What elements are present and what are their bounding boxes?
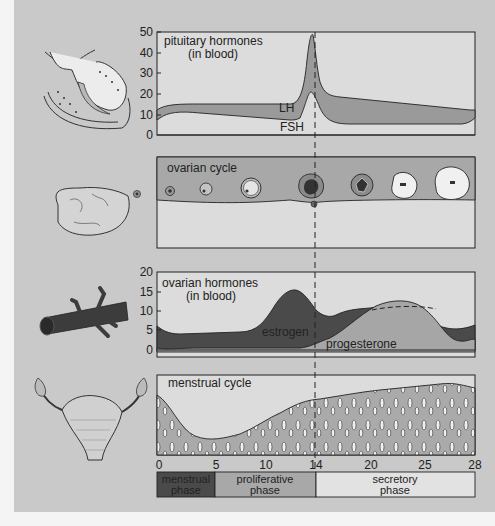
proliferative-phase-label-2: phase [250,484,280,496]
svg-text:5: 5 [213,458,220,472]
svg-text:20: 20 [140,87,154,101]
pituitary-hormones-chart: pituitary hormones (in blood) LH FSH 50 … [140,25,475,142]
ovary-icon [56,187,140,235]
svg-text:0: 0 [146,343,153,357]
svg-text:40: 40 [140,46,154,60]
ovarian-hormones-title-line2: (in blood) [186,289,236,303]
menstrual-cycle-title: menstrual cycle [168,376,252,390]
progesterone-label: progesterone [326,337,397,351]
pituitary-title-line2: (in blood) [188,47,238,61]
svg-text:30: 30 [140,66,154,80]
uterus-icon [35,378,147,460]
svg-text:14: 14 [309,458,323,472]
menstrual-cycle-diagram: pituitary hormones (in blood) LH FSH 50 … [0,0,495,526]
svg-text:0: 0 [146,128,153,142]
fsh-label: FSH [280,120,304,134]
day-axis: 0 5 10 14 20 25 28 [156,458,482,472]
ovarian-cycle-title: ovarian cycle [167,161,237,175]
svg-text:50: 50 [140,25,154,39]
ovarian-hormones-y-axis: 20 15 10 5 0 [140,265,154,357]
pituitary-gland-icon [44,50,130,129]
menstrual-phase-label-2: phase [171,484,201,496]
pituitary-title-line1: pituitary hormones [164,34,263,48]
lh-label: LH [279,101,294,115]
svg-text:10: 10 [140,304,154,318]
svg-text:25: 25 [418,458,432,472]
ovarian-hormones-chart: ovarian hormones (in blood) estrogen pro… [140,265,475,357]
svg-text:20: 20 [140,265,154,279]
svg-text:10: 10 [259,458,273,472]
svg-text:0: 0 [156,458,163,472]
svg-text:10: 10 [140,108,154,122]
ovarian-hormones-title-line1: ovarian hormones [162,276,258,290]
blood-vessel-icon [40,288,128,336]
svg-text:28: 28 [468,458,482,472]
secretory-phase-label-2: phase [380,484,410,496]
pituitary-y-axis: 50 40 30 20 10 0 [140,25,154,142]
ovarian-cycle-panel: ovarian cycle [157,157,475,248]
estrogen-label: estrogen [262,325,309,339]
svg-text:15: 15 [140,285,154,299]
svg-text:20: 20 [364,458,378,472]
phase-bar: menstrual phase proliferative phase secr… [157,472,475,497]
svg-text:5: 5 [146,323,153,337]
menstrual-cycle-panel: menstrual cycle 0 5 10 14 20 25 28 [156,375,482,472]
